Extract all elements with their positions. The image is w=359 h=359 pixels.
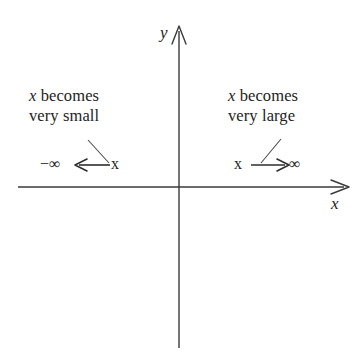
- x-axis-label: x: [331, 194, 339, 214]
- axes-canvas: [0, 0, 359, 359]
- right-annotation-text: x becomes very large: [228, 86, 298, 126]
- right-annotation-line-1: x becomes: [228, 86, 298, 106]
- left-annotation-line-1-rest: becomes: [36, 86, 99, 105]
- left-annotation-leader-line: [88, 140, 109, 163]
- left-annotation-line-1: x becomes: [29, 86, 99, 106]
- y-axis-label: y: [160, 23, 168, 43]
- right-annotation-line-2: very large: [228, 106, 298, 126]
- right-annotation-line-1-rest: becomes: [235, 86, 298, 105]
- left-annotation-line-2: very small: [29, 106, 99, 126]
- left-annotation-text: x becomes very small: [29, 86, 99, 126]
- negative-infinity-label: −∞: [40, 155, 60, 173]
- positive-infinity-label: ∞: [289, 155, 300, 173]
- left-limit-variable-label: x: [111, 155, 119, 173]
- right-limit-variable-label: x: [234, 155, 242, 173]
- limit-diagram-figure: y x x becomes very small x becomes very …: [0, 0, 359, 359]
